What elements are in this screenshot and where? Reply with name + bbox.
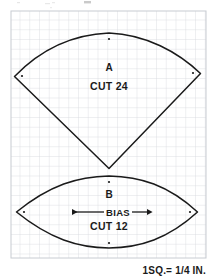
piece-b-label: B <box>105 189 112 200</box>
bias-label: BIAS <box>106 207 130 218</box>
scan-artifacts <box>17 1 91 8</box>
pattern-sheet-page: A CUT 24 B BIAS CUT 12 1SQ.= 1/4 IN. <box>0 0 218 280</box>
piece-b-dot-bottom <box>108 242 110 244</box>
piece-b-cut-label: CUT 12 <box>90 220 128 232</box>
piece-a-cut-label: CUT 24 <box>90 80 128 92</box>
piece-b-dot-left <box>23 211 25 213</box>
piece-a-label: A <box>105 62 112 73</box>
piece-a-dot-right <box>192 72 194 74</box>
piece-b-dot-top <box>108 181 110 183</box>
piece-a-dot-top <box>108 38 110 40</box>
piece-b-dot-right <box>189 211 191 213</box>
piece-a-dot-left <box>21 75 23 77</box>
scale-note: 1SQ.= 1/4 IN. <box>143 265 206 276</box>
pattern-diagram: A CUT 24 B BIAS CUT 12 1SQ.= 1/4 IN. <box>0 0 218 280</box>
